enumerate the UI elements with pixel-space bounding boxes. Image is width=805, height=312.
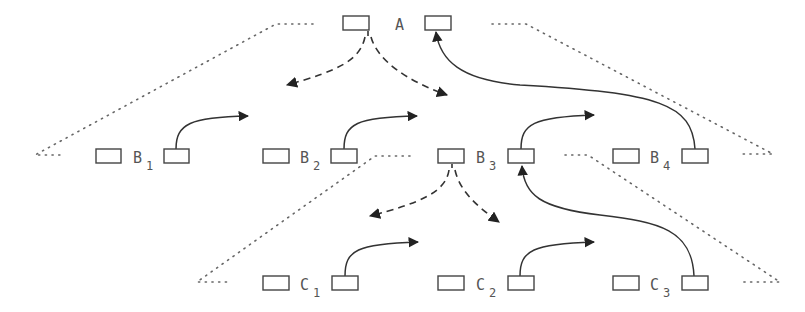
node-b1-left-field: [96, 149, 121, 163]
dotted-outline-a-left: [35, 24, 313, 155]
node-c2: C 2: [438, 276, 534, 300]
c3-to-b3-pointer: [522, 166, 694, 276]
node-b4-left-field: [613, 149, 639, 163]
b3-next-pointer: [521, 115, 594, 149]
dotted-outline-b3-left: [197, 156, 410, 282]
node-c1-right-field: [332, 276, 358, 290]
node-c3-label: C: [650, 276, 659, 294]
node-b4: B 4: [613, 149, 708, 173]
node-b3-left-field: [438, 149, 464, 163]
node-b4-label: B: [650, 149, 659, 167]
node-b1-right-field: [164, 149, 189, 163]
node-a: A: [343, 16, 451, 34]
node-b3: B 3: [438, 149, 534, 173]
node-c3-right-field: [682, 276, 708, 290]
node-c2-subscript: 2: [489, 286, 496, 300]
node-c2-right-field: [508, 276, 534, 290]
node-c2-label: C: [476, 276, 485, 294]
node-b2-left-field: [263, 149, 289, 163]
b2-next-pointer: [344, 116, 417, 149]
node-b2-right-field: [331, 149, 357, 163]
node-c3-subscript: 3: [663, 286, 670, 300]
node-b4-subscript: 4: [663, 159, 670, 173]
node-b3-label: B: [476, 149, 485, 167]
node-c1-label: C: [300, 276, 309, 294]
node-b1-label: B: [133, 149, 142, 167]
node-b4-right-field: [682, 149, 708, 163]
node-c1-left-field: [263, 276, 289, 290]
node-b1-subscript: 1: [146, 159, 153, 173]
node-b1: B 1: [96, 149, 189, 173]
node-b2-subscript: 2: [313, 159, 320, 173]
node-a-left-field: [343, 16, 369, 30]
node-c2-left-field: [438, 276, 464, 290]
b1-next-pointer: [176, 116, 248, 149]
node-a-label: A: [395, 16, 404, 34]
dotted-outline-a-right: [492, 24, 773, 154]
c1-next-pointer: [345, 242, 418, 276]
node-c3-left-field: [613, 276, 639, 290]
pointer-tree-diagram: A B 1 B 2 B 3 B 4 C 1 C 2 C: [0, 0, 805, 312]
node-b2-label: B: [300, 149, 309, 167]
dotted-outline-b3-right: [565, 155, 780, 282]
node-b3-subscript: 3: [489, 159, 496, 173]
node-c3: C 3: [613, 276, 708, 300]
node-c1-subscript: 1: [313, 286, 320, 300]
node-b3-right-field: [508, 149, 534, 163]
node-c1: C 1: [263, 276, 358, 300]
node-b2: B 2: [263, 149, 357, 173]
node-a-right-field: [425, 16, 451, 30]
c2-next-pointer: [520, 242, 594, 276]
a-child-pointers: [287, 31, 447, 95]
b3-child-pointers: [370, 164, 499, 222]
b4-to-a-pointer: [436, 32, 695, 149]
